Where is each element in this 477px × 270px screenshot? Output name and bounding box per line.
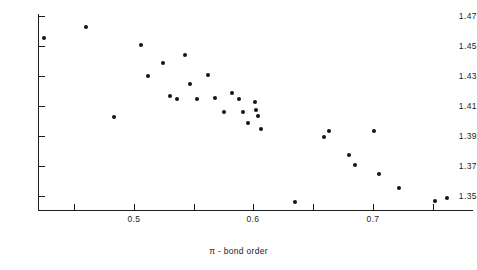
data-point [254,108,258,112]
data-point [293,200,297,204]
y-axis-tick [39,136,45,137]
data-point [84,25,88,29]
y-axis-tick [39,196,45,197]
data-point [237,97,241,101]
data-point [433,199,437,203]
x-axis-tick [74,204,75,210]
y-axis-tick-label: 1.39 [443,131,477,141]
data-point [42,36,46,40]
data-point [188,82,192,86]
y-axis-tick-label: 1.37 [443,161,477,171]
data-point [183,53,187,57]
data-point [222,110,226,114]
data-point [397,186,401,190]
y-axis-tick-label: 1.41 [443,101,477,111]
x-axis-tick-label: 0.6 [233,214,273,224]
data-point [253,100,257,104]
data-point [195,97,199,101]
data-point [112,115,116,119]
data-point [161,61,165,65]
data-point [213,96,217,100]
x-axis-title: π - bond order [0,246,477,256]
y-axis-tick [39,16,45,17]
y-axis-tick-label: 1.43 [443,71,477,81]
data-point [259,127,263,131]
data-point [347,153,351,157]
x-axis-line [38,210,473,211]
data-point [353,163,357,167]
x-axis-tick [433,204,434,210]
y-axis-tick [39,76,45,77]
plot-area: 1.471.451.431.411.391.371.35 0.50.60.7 [0,0,477,270]
x-axis-tick [134,204,135,210]
data-point [246,121,250,125]
data-point [327,129,331,133]
data-point [230,91,234,95]
data-point [372,129,376,133]
data-point [206,73,210,77]
y-axis-tick [39,46,45,47]
x-axis-tick [373,204,374,210]
data-point [146,74,150,78]
x-axis-tick-label: 0.5 [114,214,154,224]
y-axis-line [38,14,39,211]
y-axis-tick [39,106,45,107]
data-point [175,97,179,101]
y-axis-tick-label: 1.45 [443,41,477,51]
x-axis-tick [313,204,314,210]
x-axis-tick-label: 0.7 [353,214,393,224]
data-point [139,43,143,47]
data-point [256,114,260,118]
x-axis-tick [253,204,254,210]
data-point [168,94,172,98]
scatter-chart-figure: 1.471.451.431.411.391.371.35 0.50.60.7 π… [0,0,477,270]
data-point [322,135,326,139]
data-point [377,172,381,176]
y-axis-tick-label: 1.47 [443,11,477,21]
x-axis-tick [194,204,195,210]
y-axis-tick [39,166,45,167]
data-point [241,110,245,114]
